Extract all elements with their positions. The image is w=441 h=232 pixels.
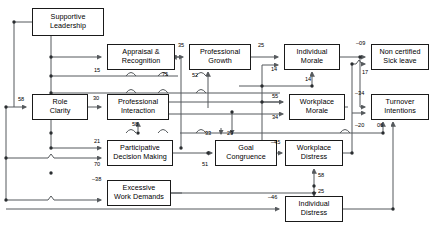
path-coefficient: 51: [202, 161, 208, 167]
node-workplace-morale[interactable]: Workplace Morale: [289, 94, 345, 120]
path-coefficient: 21: [94, 138, 100, 144]
node-non-certified-sick-leave[interactable]: Non certified Sick leave: [371, 44, 429, 70]
node-label-line2: Congruence: [226, 153, 266, 162]
path-diagram-canvas: Supportive Leadership Appraisal & Recogn…: [0, 0, 441, 232]
path-coefficient: 34: [272, 114, 278, 120]
node-turnover-intentions[interactable]: Turnover Intentions: [371, 94, 429, 120]
node-label-line2: Interaction: [121, 107, 155, 116]
node-professional-growth[interactable]: Professional Growth: [189, 44, 251, 70]
path-coefficient: 30: [93, 95, 99, 101]
path-coefficient: 15: [94, 67, 100, 73]
node-label-line2: Distress: [301, 153, 327, 162]
path-coefficient: 14: [271, 66, 277, 72]
path-coefficient: –45: [271, 139, 280, 145]
node-individual-distress[interactable]: Individual Distress: [285, 196, 343, 222]
path-coefficient: –38: [92, 176, 101, 182]
path-coefficient: –46: [268, 194, 277, 200]
node-appraisal-recognition[interactable]: Appraisal & Recognition: [107, 44, 175, 70]
path-coefficient: 58: [132, 121, 138, 127]
node-label-line2: Decision Making: [113, 153, 166, 162]
path-coefficient: –34: [355, 90, 364, 96]
node-individual-morale[interactable]: Individual Morale: [284, 44, 340, 70]
path-coefficient: 55: [272, 93, 278, 99]
node-label-line2: Morale: [301, 57, 323, 66]
node-goal-congruence[interactable]: Goal Congruence: [215, 140, 277, 166]
path-coefficient: 17: [362, 69, 368, 75]
path-coefficient: 70: [94, 161, 100, 167]
node-professional-interaction[interactable]: Professional Interaction: [107, 94, 169, 120]
node-label-line2: Recognition: [122, 57, 161, 66]
node-role-clarity[interactable]: Role Clarity: [32, 94, 88, 120]
node-label-line2: Sick leave: [383, 57, 416, 66]
node-label-line2: Work Demands: [114, 193, 164, 202]
path-coefficient: 29: [227, 130, 233, 136]
node-participative-decision-making[interactable]: Participative Decision Making: [107, 140, 173, 166]
path-coefficient: –20: [355, 122, 364, 128]
node-label-line2: Distress: [301, 209, 327, 218]
node-supportive-leadership[interactable]: Supportive Leadership: [32, 8, 104, 36]
path-coefficient: 06: [377, 122, 383, 128]
node-label-line2: Intentions: [384, 107, 416, 116]
path-coefficient: 14: [305, 76, 311, 82]
node-label-line2: Growth: [208, 57, 231, 66]
path-coefficient: 35: [178, 42, 184, 48]
path-coefficient: 33: [205, 130, 211, 136]
node-label-line2: Leadership: [50, 22, 86, 31]
node-label-line2: Morale: [306, 107, 328, 116]
path-coefficient: 58: [18, 96, 24, 102]
node-excessive-work-demands[interactable]: Excessive Work Demands: [107, 180, 171, 206]
path-coefficient: 58: [318, 172, 324, 178]
path-coefficient: 52: [192, 72, 198, 78]
path-coefficient: –09: [356, 40, 365, 46]
path-coefficient: 25: [258, 42, 264, 48]
node-workplace-distress[interactable]: Workplace Distress: [285, 140, 343, 166]
node-label-line2: Clarity: [50, 107, 71, 116]
path-coefficient: 75: [162, 71, 168, 77]
path-coefficient: 25: [318, 188, 324, 194]
